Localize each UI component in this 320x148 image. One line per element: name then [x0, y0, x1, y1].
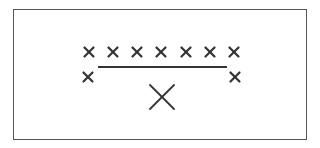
cross-mark-icon [133, 48, 142, 57]
cross-mark-icon [182, 48, 191, 57]
diagram-canvas [0, 0, 320, 148]
cross-mark-icon [206, 48, 215, 57]
cross-mark-icon [84, 73, 93, 82]
cross-mark-icon [109, 48, 118, 57]
cross-mark-icon [230, 48, 239, 57]
cross-mark-icon [85, 48, 94, 57]
cross-mark-icon [231, 73, 240, 82]
large-cross-icon [150, 85, 174, 109]
cross-mark-icon [157, 48, 166, 57]
